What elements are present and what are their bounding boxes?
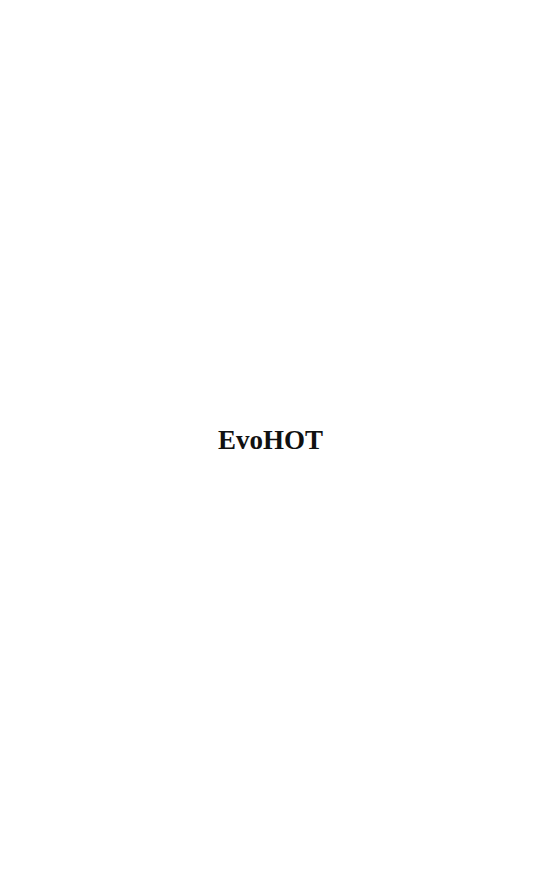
document-page: EvoHOT [0,0,541,882]
document-title: EvoHOT [0,424,541,456]
